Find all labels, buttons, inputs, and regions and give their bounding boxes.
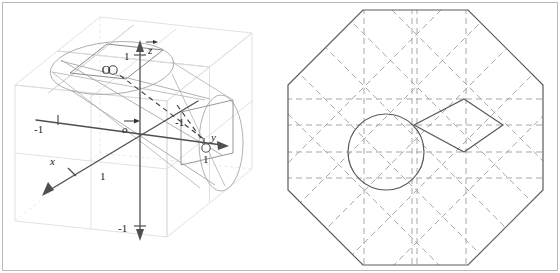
- outer-border: [3, 3, 558, 271]
- z-positive-tick-label: 1: [124, 50, 130, 62]
- point-marker-y: [202, 144, 210, 152]
- point-O-label: O: [102, 63, 111, 77]
- x-positive-tick-label: 1: [100, 170, 106, 182]
- z-axis-label: z: [147, 44, 153, 56]
- figure-frame: z 1 -1 o O y 1 -1 x 1 -1: [0, 0, 560, 273]
- x-axis-label: x: [49, 155, 55, 167]
- y-axis-label: y: [210, 131, 216, 143]
- z-negative-tick-label: -1: [118, 222, 127, 234]
- y-negative-tick-label: -1: [34, 123, 43, 135]
- interior-minus-one-label: -1: [175, 116, 184, 128]
- y-positive-tick-label: 1: [203, 153, 209, 165]
- figure-canvas: z 1 -1 o O y 1 -1 x 1 -1: [0, 0, 560, 273]
- origin-label: o: [122, 123, 128, 135]
